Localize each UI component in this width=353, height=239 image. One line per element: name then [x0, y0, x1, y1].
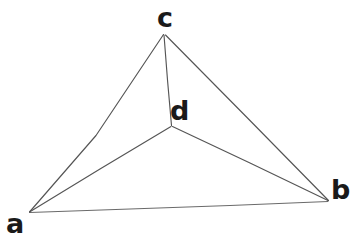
vertex-label-b: b	[331, 176, 350, 203]
diagram-canvas: a b c d	[0, 0, 353, 239]
edge-a-b-line	[30, 202, 329, 213]
edge-a-d-line	[30, 127, 172, 213]
edge-a-c-line	[30, 35, 164, 213]
edge-d-b-line	[173, 127, 329, 201]
vertex-label-a: a	[6, 210, 24, 237]
vertex-label-c: c	[157, 4, 173, 31]
edge-c-b-line	[166, 35, 329, 201]
vertex-label-d: d	[170, 97, 189, 124]
